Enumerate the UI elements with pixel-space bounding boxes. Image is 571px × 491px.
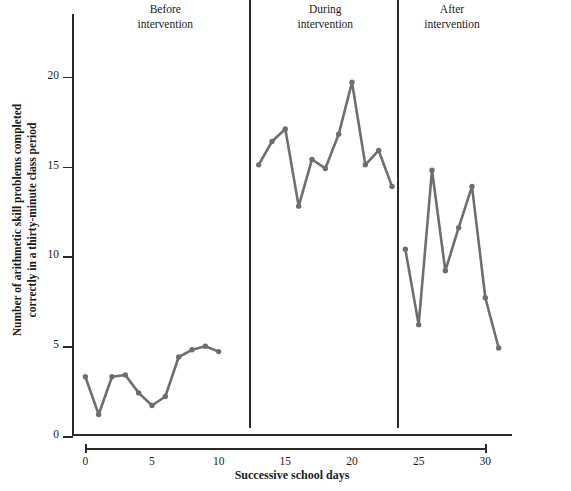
- x-tick-label: 30: [480, 455, 492, 467]
- y-tick-label: 0: [53, 428, 59, 440]
- data-point: day 1: 1.2: [96, 412, 101, 417]
- data-point: day 15: 17.1: [283, 126, 288, 131]
- data-point: day 5: 1.7: [149, 403, 154, 408]
- data-point: day 0: 3.3: [83, 374, 88, 379]
- data-point: day 3: 3.4: [123, 372, 128, 377]
- data-point: day 4: 2.4: [136, 390, 141, 395]
- x-tick-label: 20: [346, 455, 358, 467]
- data-point: day 7: 4.4: [176, 354, 181, 359]
- data-point: day 24: 10.4: [403, 247, 408, 252]
- data-series-layer: day 0: 3.3day 1: 1.2day 2: 3.3day 3: 3.4…: [72, 14, 512, 436]
- y-tick-label: 5: [53, 338, 59, 350]
- series-after-intervention: day 24: 10.4day 25: 6.2day 26: 14.8day 2…: [403, 168, 502, 351]
- data-point: day 10: 4.7: [216, 349, 221, 354]
- data-point: day 28: 11.6: [456, 225, 461, 230]
- data-point: day 16: 12.8: [296, 203, 301, 208]
- y-tick-label: 15: [48, 159, 60, 171]
- data-point: day 19: 16.8: [336, 132, 341, 137]
- y-axis-title-text: Number of arithmetic skill problems comp…: [10, 104, 40, 336]
- data-point: day 27: 9.2: [443, 268, 448, 273]
- data-point: day 9: 5: [203, 344, 208, 349]
- y-axis-title-line2: correctly in a thirty-minute class perio…: [26, 123, 38, 318]
- y-tick-label: 20: [48, 69, 60, 81]
- x-tick-label: 25: [413, 455, 425, 467]
- data-point: day 23: 13.9: [389, 184, 394, 189]
- data-point: day 25: 6.2: [416, 322, 421, 327]
- data-point: day 20: 19.7: [349, 80, 354, 85]
- plot-area: 05101520 BeforeinterventionDuringinterve…: [72, 14, 512, 436]
- data-point: day 21: 15.1: [363, 162, 368, 167]
- series-before-intervention: day 0: 3.3day 1: 1.2day 2: 3.3day 3: 3.4…: [83, 344, 222, 418]
- figure-container: Number of arithmetic skill problems comp…: [0, 0, 571, 491]
- x-tick-label: 10: [213, 455, 225, 467]
- data-point: day 18: 14.9: [323, 166, 328, 171]
- data-point: day 8: 4.8: [189, 347, 194, 352]
- y-tick: 0: [63, 436, 73, 438]
- data-point: day 13: 15.1: [256, 162, 261, 167]
- x-tick-label: 0: [82, 455, 88, 467]
- data-point: day 6: 2.2: [163, 394, 168, 399]
- series-line: [259, 82, 392, 206]
- x-tick-label: 5: [149, 455, 155, 467]
- x-axis-title: Successive school days: [72, 468, 512, 483]
- data-point: day 17: 15.4: [309, 157, 314, 162]
- y-axis-title: Number of arithmetic skill problems comp…: [8, 0, 42, 440]
- series-line: [405, 170, 498, 348]
- data-point: day 30: 7.7: [483, 295, 488, 300]
- data-point: day 2: 3.3: [109, 374, 114, 379]
- y-tick-label: 10: [48, 248, 60, 260]
- x-axis-end-cap: [485, 444, 487, 453]
- y-axis-title-line1: Number of arithmetic skill problems comp…: [11, 104, 23, 336]
- x-axis-end-cap: [85, 444, 87, 453]
- data-point: day 26: 14.8: [429, 168, 434, 173]
- x-tick-label: 15: [280, 455, 292, 467]
- data-point: day 31: 4.9: [496, 345, 501, 350]
- series-during-intervention: day 13: 15.1day 14: 16.4day 15: 17.1day …: [256, 80, 395, 209]
- data-point: day 29: 13.9: [469, 184, 474, 189]
- data-point: day 14: 16.4: [269, 139, 274, 144]
- x-axis-line: 051015202530: [85, 448, 485, 450]
- data-point: day 22: 15.9: [376, 148, 381, 153]
